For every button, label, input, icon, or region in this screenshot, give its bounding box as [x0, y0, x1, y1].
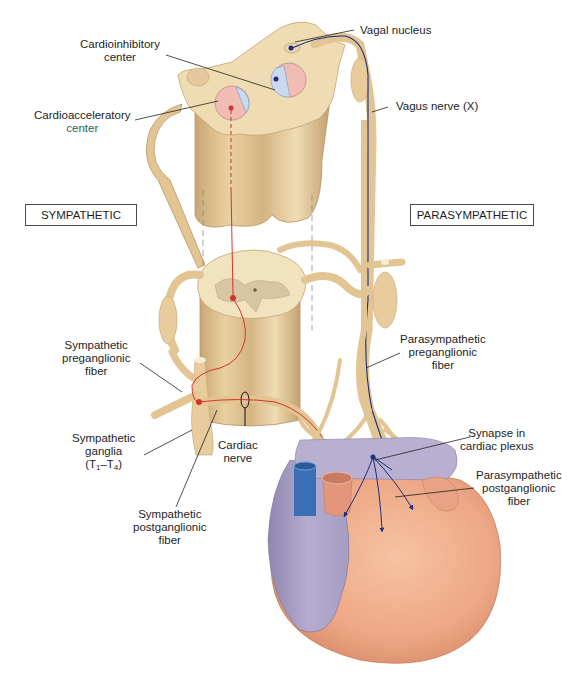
label-line: center — [34, 122, 131, 135]
label-line: ganglia — [72, 445, 135, 458]
label-line: Sympathetic — [133, 508, 207, 521]
label-sympathetic-preganglionic-fiber: Sympathetic preganglionic fiber — [62, 339, 130, 378]
medulla-oblongata — [146, 22, 345, 268]
label-line: fiber — [62, 365, 130, 378]
label-line: Parasympathetic — [476, 469, 562, 482]
superior-vena-cava — [294, 462, 316, 516]
label-line: Cardioinhibitory — [80, 38, 160, 51]
label-line: preganglionic — [62, 352, 130, 365]
label-line: fiber — [133, 534, 207, 547]
label-line: cardiac plexus — [460, 440, 534, 453]
cardioinhibitory-center — [271, 63, 306, 97]
label-line-segment-range: (T1–T4) — [72, 458, 135, 474]
label-line: Cardioacceleratory — [34, 109, 131, 122]
label-line: Sympathetic — [62, 339, 130, 352]
label-line: fiber — [400, 359, 486, 372]
label-vagus-nerve: Vagus nerve (X) — [396, 100, 478, 113]
label-cardiac-nerve: Cardiac nerve — [218, 439, 258, 465]
label-vagal-nucleus: Vagal nucleus — [360, 24, 431, 37]
label-line: postganglionic — [133, 521, 207, 534]
label-parasympathetic-postganglionic-fiber: Parasympathetic postganglionic fiber — [476, 469, 562, 508]
label-line: Sympathetic — [72, 432, 135, 445]
label-line: nerve — [218, 452, 258, 465]
label-line: Parasympathetic — [400, 333, 486, 346]
parasympathetic-division-label: PARASYMPATHETIC — [410, 204, 534, 226]
heart — [268, 438, 501, 664]
label-sympathetic-ganglia: Sympathetic ganglia (T1–T4) — [72, 432, 135, 474]
sympathetic-division-label: SYMPATHETIC — [25, 204, 137, 226]
label-line: postganglionic — [476, 482, 562, 495]
cervical-ganglion — [370, 259, 402, 328]
label-line: preganglionic — [400, 346, 486, 359]
label-cardioinhibitory-center: Cardioinhibitory center — [80, 38, 160, 64]
label-parasympathetic-preganglionic-fiber: Parasympathetic preganglionic fiber — [400, 333, 486, 372]
label-line: Cardiac — [218, 439, 258, 452]
label-line: Synapse in — [460, 427, 534, 440]
cardioacceleratory-center — [215, 86, 249, 120]
label-sympathetic-postganglionic-fiber: Sympathetic postganglionic fiber — [133, 508, 207, 547]
label-cardioacceleratory-center: Cardioacceleratory center — [34, 109, 131, 135]
label-line: fiber — [476, 495, 562, 508]
label-line: center — [80, 51, 160, 64]
aorta — [322, 472, 352, 516]
label-synapse-cardiac-plexus: Synapse in cardiac plexus — [460, 427, 534, 453]
